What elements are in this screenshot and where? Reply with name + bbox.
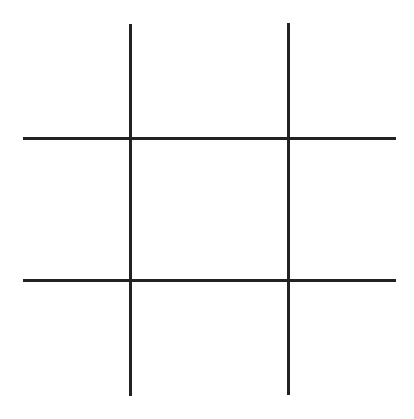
cell-top-center[interactable] bbox=[132, 24, 287, 137]
cell-top-left[interactable] bbox=[23, 24, 129, 137]
cell-middle-left[interactable] bbox=[23, 140, 129, 279]
cell-center[interactable] bbox=[132, 140, 287, 279]
tic-tac-toe-board bbox=[0, 0, 414, 419]
cell-middle-right[interactable] bbox=[290, 140, 396, 279]
cell-bottom-center[interactable] bbox=[132, 282, 287, 395]
cell-bottom-right[interactable] bbox=[290, 282, 396, 395]
cell-top-right[interactable] bbox=[290, 24, 396, 137]
cell-bottom-left[interactable] bbox=[23, 282, 129, 395]
